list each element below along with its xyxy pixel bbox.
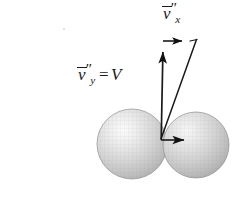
- left-sphere: [95, 107, 171, 183]
- equals-sign: =: [97, 65, 111, 84]
- physics-vector-diagram: v″x v″y=V: [0, 0, 237, 201]
- right-sphere: [161, 110, 233, 182]
- diagram-canvas: [0, 0, 237, 201]
- label-vx: v″x: [163, 5, 182, 22]
- vy-vertical-arrow: [161, 52, 163, 140]
- speck-artifact: [63, 28, 65, 30]
- label-vy: v″y=V: [78, 66, 121, 83]
- vx-subscript: x: [175, 13, 180, 25]
- vy-value: V: [111, 65, 121, 84]
- vy-subscript: y: [90, 74, 95, 86]
